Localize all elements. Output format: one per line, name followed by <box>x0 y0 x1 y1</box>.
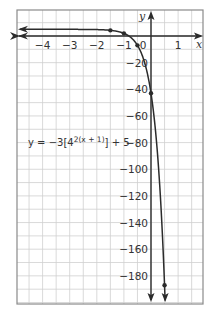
y-tick-label: −160 <box>119 243 148 255</box>
y-tick-label: −180 <box>119 270 148 282</box>
curve-point <box>162 283 166 287</box>
y-tick-label: −100 <box>119 163 148 175</box>
curve-point <box>122 31 126 35</box>
y-axis-label: y <box>138 10 146 23</box>
equation-label: y = −3[42(x + 1)] + 5 <box>28 135 130 148</box>
equation-prefix: y = −3[4 <box>28 137 74 148</box>
y-tick-label: −40 <box>126 83 148 95</box>
equation-exponent: 2(x + 1) <box>74 135 105 144</box>
curve-point <box>135 43 139 47</box>
x-axis-label: x <box>196 38 203 51</box>
y-tick-label: −120 <box>119 190 148 202</box>
y-tick-label: −140 <box>119 217 148 229</box>
y-tick-label: −60 <box>126 110 148 122</box>
exponential-graph: −4−3−2−101 −20−40−60−80−100−120−140−160−… <box>0 0 219 313</box>
x-tick-label: −1 <box>116 39 131 51</box>
curve-point <box>108 28 112 32</box>
x-tick-label: 0 <box>140 39 147 51</box>
equation-suffix: ] + 5 <box>105 137 130 148</box>
x-tick-label: −3 <box>62 39 77 51</box>
curve-point <box>149 91 153 95</box>
x-tick-label: −2 <box>89 39 104 51</box>
x-tick-label: −4 <box>35 39 51 51</box>
grid-lines <box>17 10 203 304</box>
y-tick-labels: −20−40−60−80−100−120−140−160−180 <box>119 57 148 282</box>
x-tick-label: 1 <box>175 39 182 51</box>
